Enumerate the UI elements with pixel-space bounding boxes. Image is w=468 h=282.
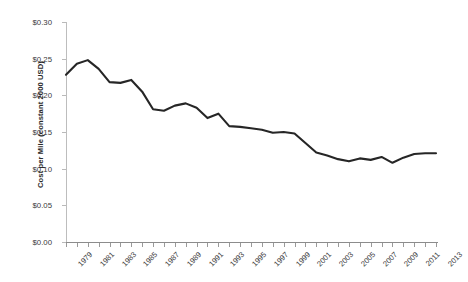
plot-area xyxy=(0,0,468,282)
line-chart: Cost per Mile (constant 2000 USD) $0.30$… xyxy=(0,0,468,282)
series-line-cost-per-mile xyxy=(66,60,436,163)
chart-screenshot: Cost per Mile (constant 2000 USD) $0.30$… xyxy=(0,0,468,282)
